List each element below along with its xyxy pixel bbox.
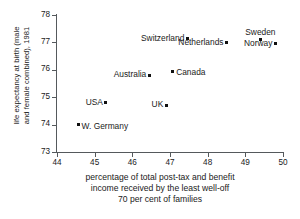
y-axis-label: life expectancy at birth (male and femal… (12, 1, 31, 151)
scatter-chart: life expectancy at birth (male and femal… (0, 0, 300, 219)
y-tick-label-text: 75 (34, 93, 50, 101)
x-tick-mark (208, 153, 209, 157)
y-tick-label: 78 (30, 11, 50, 20)
y-tick-label: 75 (30, 93, 50, 102)
y-tick-label-text: 73 (34, 148, 50, 156)
y-tick-label: 74 (30, 120, 50, 129)
y-tick-mark (52, 97, 56, 98)
x-tick-label: 49 (234, 159, 256, 167)
x-tick-mark (170, 153, 171, 157)
data-point-label: W. Germany (82, 121, 129, 130)
data-point-label: Norway (244, 38, 272, 47)
x-tick-mark (245, 153, 246, 157)
x-tick-mark (95, 153, 96, 157)
x-tick-label: 46 (121, 159, 143, 167)
y-tick-mark (52, 152, 56, 153)
y-tick-label-text: 74 (34, 120, 50, 128)
y-tick-label-text: 76 (34, 65, 50, 73)
data-point (165, 104, 168, 107)
plot-area: SwitzerlandNetherlandsSwedenNorwayAustra… (57, 15, 283, 152)
y-tick-mark (52, 70, 56, 71)
y-tick-mark (52, 42, 56, 43)
y-tick-label-text: 77 (34, 38, 50, 46)
x-tick-mark (132, 153, 133, 157)
x-tick-label: 50 (272, 159, 294, 167)
y-axis-label-container: life expectancy at birth (male and femal… (0, 0, 34, 160)
data-point (104, 101, 107, 104)
data-point (148, 74, 151, 77)
y-tick-label: 76 (30, 65, 50, 74)
data-point (171, 70, 174, 73)
y-tick-label-text: 78 (34, 11, 50, 19)
y-tick-label: 73 (30, 148, 50, 157)
x-tick-label: 47 (159, 159, 181, 167)
data-point-label: USA (86, 97, 103, 106)
data-point-label: UK (152, 100, 164, 109)
data-point (274, 42, 277, 45)
x-tick-mark (57, 153, 58, 157)
data-point-label: Canada (176, 68, 205, 77)
x-tick-mark (283, 153, 284, 157)
data-point-label: Netherlands (178, 37, 223, 46)
data-point (225, 41, 228, 44)
data-point (77, 123, 80, 126)
y-tick-label: 77 (30, 38, 50, 47)
data-point-label: Australia (114, 70, 147, 79)
x-tick-label: 48 (197, 159, 219, 167)
y-tick-mark (52, 125, 56, 126)
y-tick-mark (52, 15, 56, 16)
x-tick-label: 45 (84, 159, 106, 167)
data-point-label: Sweden (245, 28, 275, 37)
x-tick-label: 44 (46, 159, 68, 167)
x-axis-caption: percentage of total post-tax and benefit… (36, 172, 284, 206)
